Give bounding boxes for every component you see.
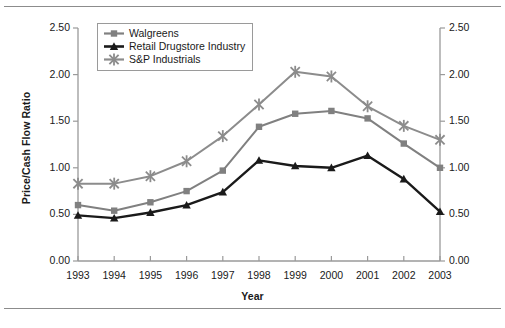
data-point-1993 [75, 202, 81, 208]
data-point-2001 [364, 115, 370, 121]
x-axis-title: Year [0, 290, 505, 302]
legend-item-s-p-industrials[interactable]: S&P Industrials [103, 53, 245, 66]
data-point-1995 [147, 199, 153, 205]
x-axis-tick-label-2000: 2000 [311, 269, 351, 281]
data-point-1999 [292, 111, 298, 117]
y-axis-left-tick-label-0.00: 0.00 [36, 254, 70, 266]
y-axis-left-tick-label-1.00: 1.00 [36, 161, 70, 173]
x-axis-tick-label-2003: 2003 [420, 269, 460, 281]
legend-item-walgreens[interactable]: Walgreens [103, 27, 245, 40]
y-axis-right-tick-label-1.00: 1.00 [449, 161, 485, 173]
y-axis-right-tick-label-0.50: 0.50 [449, 207, 485, 219]
data-point-2002 [401, 140, 407, 146]
series-line [78, 156, 440, 218]
data-point-1997 [220, 167, 226, 173]
y-axis-right-tick-label-2.50: 2.50 [449, 21, 485, 33]
x-axis-tick-label-1996: 1996 [167, 269, 207, 281]
legend-label: Retail Drugstore Industry [129, 40, 245, 53]
series-retail-drugstore-industry [74, 151, 444, 221]
data-point-2003 [437, 165, 443, 171]
x-axis-tick-label-1999: 1999 [275, 269, 315, 281]
legend-marker-cross-icon [103, 53, 125, 66]
y-axis-left-tick-label-0.50: 0.50 [36, 207, 70, 219]
y-axis-right-tick-label-2.00: 2.00 [449, 68, 485, 80]
x-axis-tick-label-1997: 1997 [203, 269, 243, 281]
data-point-2001 [363, 151, 371, 159]
y-axis-left-tick-label-1.50: 1.50 [36, 114, 70, 126]
x-axis-tick-label-2002: 2002 [384, 269, 424, 281]
legend-point [111, 30, 117, 36]
legend-item-retail-drugstore-industry[interactable]: Retail Drugstore Industry [103, 40, 245, 53]
x-axis-tick-label-1998: 1998 [239, 269, 279, 281]
x-axis-tick-label-2001: 2001 [348, 269, 388, 281]
x-axis-tick-label-1993: 1993 [58, 269, 98, 281]
legend-marker-triangle-icon [103, 40, 125, 53]
y-axis-right-tick-label-0.00: 0.00 [449, 254, 485, 266]
chart-legend: WalgreensRetail Drugstore IndustryS&P In… [97, 23, 253, 71]
legend-marker-square-icon [103, 27, 125, 40]
figure-container: Price/Cash Flow Ratio Year 0.000.501.001… [0, 0, 505, 328]
data-point-2000 [328, 108, 334, 114]
data-point-1994 [111, 207, 117, 213]
y-axis-right-tick-label-1.50: 1.50 [449, 114, 485, 126]
x-axis-tick-label-1994: 1994 [94, 269, 134, 281]
data-point-1998 [256, 124, 262, 130]
y-axis-left-tick-label-2.00: 2.00 [36, 68, 70, 80]
y-axis-title: Price/Cash Flow Ratio [20, 78, 32, 218]
data-point-1996 [183, 188, 189, 194]
legend-label: Walgreens [129, 27, 179, 40]
y-axis-left-tick-label-2.50: 2.50 [36, 21, 70, 33]
legend-label: S&P Industrials [129, 53, 201, 66]
x-axis-tick-label-1995: 1995 [130, 269, 170, 281]
